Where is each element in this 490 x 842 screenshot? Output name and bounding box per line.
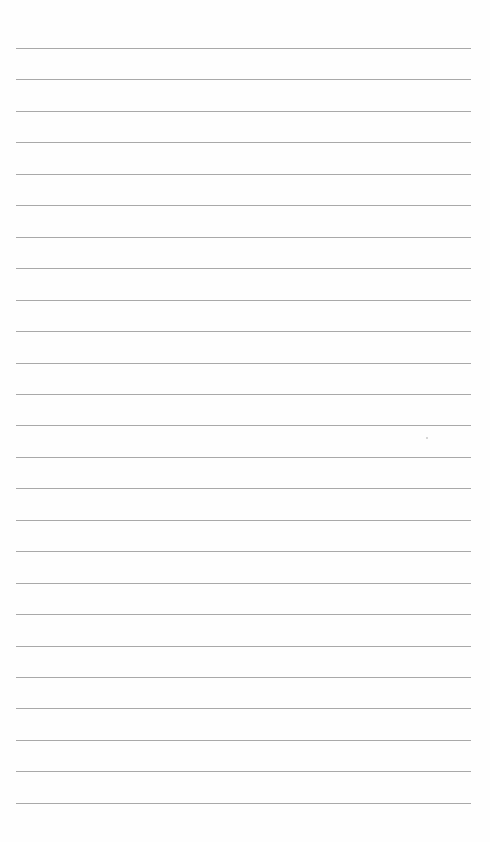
ruled-line (16, 425, 471, 426)
paper-speck (426, 437, 428, 439)
ruled-line (16, 457, 471, 458)
ruled-line (16, 583, 471, 584)
ruled-line (16, 520, 471, 521)
ruled-line (16, 79, 471, 80)
ruled-line (16, 740, 471, 741)
ruled-line (16, 363, 471, 364)
ruled-line (16, 771, 471, 772)
ruled-line (16, 111, 471, 112)
ruled-line (16, 677, 471, 678)
ruled-line (16, 488, 471, 489)
ruled-line (16, 237, 471, 238)
ruled-line (16, 331, 471, 332)
ruled-line (16, 394, 471, 395)
lined-paper-page (0, 0, 490, 842)
ruled-line (16, 48, 471, 49)
ruled-line (16, 708, 471, 709)
ruled-line (16, 646, 471, 647)
ruled-line (16, 551, 471, 552)
ruled-line (16, 614, 471, 615)
ruled-line (16, 300, 471, 301)
ruled-line (16, 142, 471, 143)
ruled-line (16, 174, 471, 175)
ruled-line (16, 268, 471, 269)
ruled-line (16, 803, 471, 804)
ruled-line (16, 205, 471, 206)
